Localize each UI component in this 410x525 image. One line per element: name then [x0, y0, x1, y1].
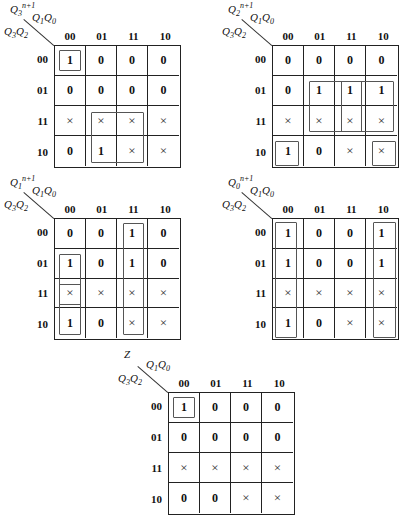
kmap-cell: 0 [200, 423, 231, 453]
kmap-cell: 0 [55, 136, 86, 166]
column-header: 01 [86, 203, 118, 215]
row-header: 11 [244, 287, 266, 299]
column-variables-label: Q1Q0 [250, 11, 274, 26]
kmap-cell: × [335, 279, 366, 309]
row-header: 00 [26, 226, 48, 238]
row-header: 10 [26, 318, 48, 330]
kmap-cell: 0 [55, 219, 86, 249]
kmap-cell: × [262, 453, 293, 483]
kmap-cell: 0 [304, 136, 335, 166]
column-header: 11 [118, 203, 150, 215]
column-header: 01 [304, 30, 336, 42]
kmap-cell: × [148, 279, 179, 309]
kmap-cell: × [86, 279, 117, 309]
row-header: 00 [244, 226, 266, 238]
row-header: 01 [244, 257, 266, 269]
row-header: 10 [140, 493, 162, 505]
column-header: 01 [86, 30, 118, 42]
row-variables-label: Q3Q2 [222, 198, 246, 213]
column-header: 11 [336, 203, 368, 215]
row-variables-label: Q3Q2 [222, 25, 246, 40]
kmap-cell: × [55, 106, 86, 136]
kmap-cell: 0 [148, 46, 179, 76]
column-header: 00 [272, 30, 304, 42]
row-header: 11 [26, 115, 48, 127]
kmap-cell: 0 [335, 219, 366, 249]
kmap-cell: 0 [304, 249, 335, 279]
grouping-loop [373, 222, 396, 338]
kmap-cell: × [169, 453, 200, 483]
column-header: 10 [149, 203, 181, 215]
kmap-cell: 0 [200, 483, 231, 513]
kmap-cell: 0 [335, 46, 366, 76]
kmap-cell: 0 [231, 423, 262, 453]
column-header: 10 [149, 30, 181, 42]
kmap-cell: × [148, 308, 179, 338]
grouping-loop [59, 284, 81, 335]
kmap-cell: 0 [86, 308, 117, 338]
kmap-cell: × [200, 453, 231, 483]
column-header: 10 [263, 377, 295, 389]
row-header: 10 [244, 146, 266, 158]
grouping-loop [372, 141, 396, 166]
kmap-cell: 0 [366, 46, 397, 76]
column-variables-label: Q1Q0 [250, 184, 274, 199]
row-header: 11 [26, 287, 48, 299]
row-header: 10 [26, 146, 48, 158]
kmap-cell: 0 [86, 249, 117, 279]
grouping-loop [275, 222, 297, 338]
kmap-cell: 0 [86, 76, 117, 106]
column-header: 01 [304, 203, 336, 215]
kmap-cell: 0 [231, 393, 262, 423]
row-header: 01 [26, 84, 48, 96]
kmap-cell: 0 [304, 219, 335, 249]
column-variables-label: Q1Q0 [32, 184, 56, 199]
kmap-cell: 0 [335, 249, 366, 279]
kmap-cell: × [304, 279, 335, 309]
grouping-loop [341, 81, 395, 133]
kmap-cell: × [273, 106, 304, 136]
kmap-cell: 0 [55, 76, 86, 106]
column-header: 00 [272, 203, 304, 215]
row-header: 00 [244, 53, 266, 65]
kmap-cell: 0 [273, 76, 304, 106]
kmap-cell: 0 [169, 483, 200, 513]
kmap-cell: 0 [148, 219, 179, 249]
column-header: 11 [336, 30, 368, 42]
column-header: 10 [367, 203, 399, 215]
row-header: 00 [26, 53, 48, 65]
kmap-cell: × [148, 106, 179, 136]
kmap-cell: 0 [262, 423, 293, 453]
column-variables-label: Q1Q0 [146, 358, 170, 373]
column-header: 00 [54, 203, 86, 215]
row-header: 00 [140, 400, 162, 412]
column-header: 11 [232, 377, 264, 389]
kmap-cell: 0 [86, 219, 117, 249]
row-header: 01 [26, 257, 48, 269]
kmap-cell: × [335, 136, 366, 166]
column-header: 01 [200, 377, 232, 389]
grouping-loop [123, 223, 145, 335]
row-header: 10 [244, 318, 266, 330]
kmap-cell: × [231, 483, 262, 513]
kmap-cell: 0 [86, 46, 117, 76]
row-header: 11 [140, 462, 162, 474]
kmap-cell: 0 [148, 249, 179, 279]
kmap-cell: 0 [117, 76, 148, 106]
row-variables-label: Q3Q2 [4, 198, 28, 213]
kmap-cell: 0 [169, 423, 200, 453]
grouping-loop [59, 50, 81, 71]
kmap-cell: × [231, 453, 262, 483]
grouping-loop [91, 112, 145, 164]
row-header: 01 [140, 431, 162, 443]
row-variables-label: Q3Q2 [118, 372, 142, 387]
row-variables-label: Q3Q2 [4, 25, 28, 40]
grouping-loop [275, 141, 299, 166]
row-header: 01 [244, 84, 266, 96]
kmap-cell: 0 [148, 76, 179, 106]
kmap-cell: 0 [304, 308, 335, 338]
column-header: 00 [54, 30, 86, 42]
kmap-cell: 0 [117, 46, 148, 76]
kmap-cell: 0 [304, 46, 335, 76]
kmap-cell: × [262, 483, 293, 513]
